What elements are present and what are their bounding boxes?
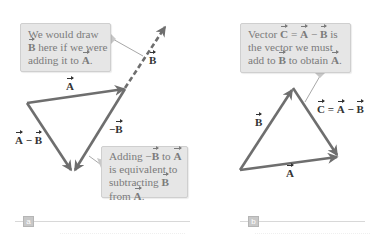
panel-a-rule [15,221,190,222]
vector-symbol: B [28,41,35,54]
vector-symbol: C [280,28,288,41]
panel-b-tag: b [248,216,259,227]
callout-line: We would draw [28,28,104,41]
operator: − [23,134,35,146]
vector-a-arrow [27,89,124,103]
leader-line-b [305,76,320,102]
label-c-equals-a-minus-b: C = A − B [317,103,364,115]
vector-symbol: B [162,176,169,189]
vector-symbol: B [152,150,159,163]
callout-line: B here if we were [28,41,104,54]
vector-symbol: A [82,54,90,67]
vector-symbol: B [115,123,122,135]
label-a: A [66,80,74,92]
callout-text: the vector we must [248,41,333,53]
vector-symbol: B [320,28,327,41]
dashed-vector-b-arrow [125,27,165,88]
vector-symbol: A [134,190,142,203]
callout-text: to obtain [286,54,331,66]
operator: − [345,103,357,115]
callout-line: the vector we must [248,41,344,54]
callout-text: . [339,54,342,66]
vector-symbol: A [331,54,339,67]
vector-symbol: A [15,134,23,146]
callout-vector-c: Vector C = A − B is the vector we must a… [240,23,351,73]
callout-text: Adding − [109,150,152,162]
label-b-dashed: B [149,54,156,66]
vector-symbol: B [278,54,285,67]
label-a-minus-b: A − B [15,134,42,146]
callout-text: here if we were [35,41,107,53]
panel-b-caption-placeholder [255,233,370,234]
callout-line: from A. [109,190,181,203]
callout-text: add to [248,54,278,66]
panel-a-caption-placeholder [60,233,185,234]
callout-text: subtracting [109,176,162,188]
callout-text: . [142,190,145,202]
callout-pointer-top-a [111,34,116,44]
operator: = [288,28,300,40]
operator: − [308,28,320,40]
callout-adding-neg-b: Adding −B to A is equivalent to subtract… [101,146,188,198]
vector-symbol: A [286,167,294,179]
label-b-panel-b: B [255,116,262,128]
callout-pointer-b [315,73,325,78]
callout-line: subtracting B [109,176,181,189]
callout-line: adding it to A. [28,54,104,67]
leader-line-top-a [111,38,143,56]
callout-text: Vector [248,28,280,40]
vector-symbol: A [66,80,74,92]
callout-drawing-b-a: We would draw B here if we were adding i… [20,23,111,72]
vector-symbol: A [173,150,181,163]
vector-c-arrow [293,88,337,155]
callout-text: . [90,54,93,66]
vector-subtraction-figure: We would draw B here if we were adding i… [0,0,378,238]
callout-text: from [109,190,134,202]
label-neg-b: −B [109,123,123,135]
vector-symbol: B [35,134,42,146]
callout-text: adding it to [28,54,82,66]
vector-symbol: B [356,103,363,115]
callout-line: Vector C = A − B is [248,28,344,41]
vector-symbol: A [300,28,308,41]
vector-symbol: B [149,54,156,66]
callout-text: is [327,28,337,40]
callout-line: add to B to obtain A. [248,54,344,67]
vector-b-arrow-b [240,90,292,170]
vector-symbol: B [255,116,262,128]
vector-symbol: A [337,103,345,115]
label-a-panel-b: A [286,167,294,179]
vector-symbol: C [317,103,325,115]
callout-line: is equivalent to [109,163,181,176]
operator: = [325,103,337,115]
callout-line: Adding −B to A [109,150,181,163]
callout-text: to [159,150,173,162]
panel-a-tag: a [23,216,34,227]
callout-text: We would draw [28,28,99,40]
